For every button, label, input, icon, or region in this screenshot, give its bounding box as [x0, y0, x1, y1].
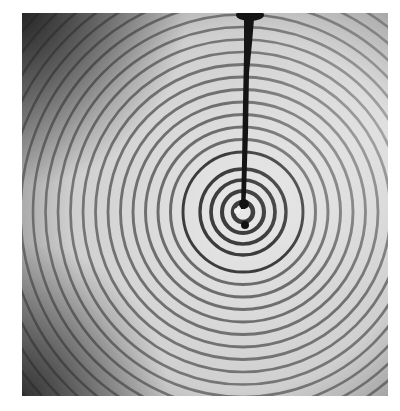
ripple-pattern	[22, 13, 388, 396]
drop-point	[239, 199, 249, 209]
ripple-tank-photo	[22, 13, 388, 396]
